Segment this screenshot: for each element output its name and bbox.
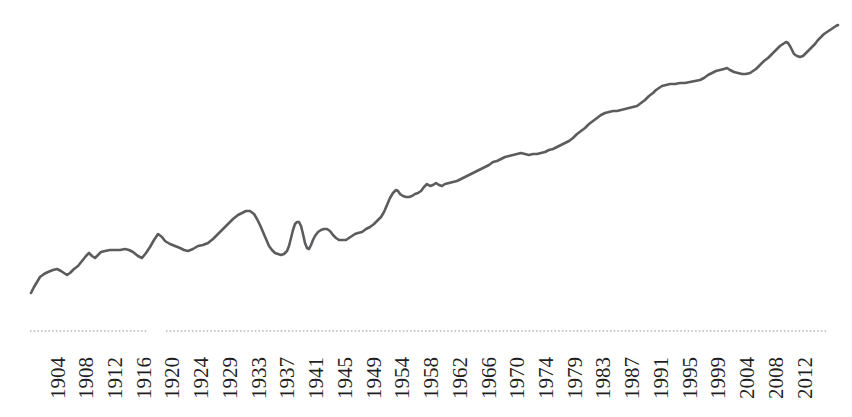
x-axis-label: 1979 [563,357,587,399]
x-axis-label: 1920 [160,357,184,399]
line-chart: 1904190819121916192019241929193319371941… [0,0,852,417]
x-axis-label: 1908 [74,357,98,399]
x-axis-label: 1995 [678,357,702,399]
x-axis-label: 1999 [706,357,730,399]
x-axis-label: 1945 [333,357,357,399]
chart-figure: 1904190819121916192019241929193319371941… [0,0,852,417]
x-axis-label: 1937 [275,357,299,399]
x-axis-label: 1987 [620,357,644,399]
x-axis-label: 2008 [764,357,788,399]
x-axis-label: 1941 [304,357,328,399]
x-axis-labels-group: 1904190819121916192019241929193319371941… [46,357,817,400]
x-axis-label: 1983 [591,357,615,399]
x-axis-label: 1933 [247,357,271,399]
x-axis-label: 1962 [448,357,472,399]
x-axis-label: 1924 [189,357,213,400]
x-axis-label: 2004 [735,357,759,400]
x-axis-label: 1912 [103,357,127,399]
x-axis-label: 1916 [132,357,156,399]
x-axis-label: 1966 [477,357,501,399]
x-axis-label: 1958 [419,357,443,399]
x-axis-label: 2012 [793,357,817,399]
x-axis-label: 1949 [362,357,386,399]
data-series-group [31,25,838,293]
x-axis-label: 1904 [46,357,70,400]
x-axis-label: 1929 [218,357,242,399]
x-axis-label: 1954 [390,357,414,400]
x-axis-label: 1970 [505,357,529,399]
x-axis-label: 1974 [534,357,558,400]
x-axis-label: 1991 [649,357,673,399]
data-series-line [31,25,838,293]
